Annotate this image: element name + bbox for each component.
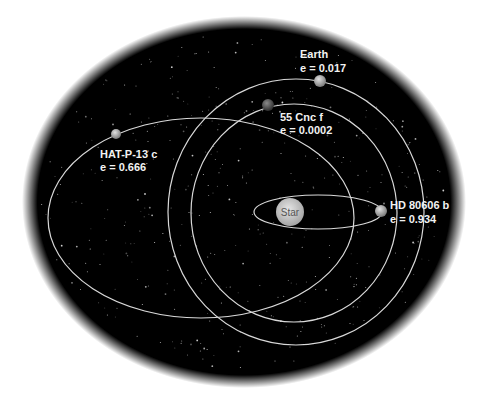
eccentricity-label: e = 0.0002 (280, 124, 332, 136)
planet-body-55-cnc-f (262, 99, 274, 111)
orbit-diagram: Star Earthe = 0.01755 Cnc fe = 0.0002HAT… (0, 0, 481, 396)
planet-body-hd-80606-b (375, 205, 387, 217)
eccentricity-label: e = 0.017 (300, 62, 346, 74)
planet-body-earth (314, 75, 326, 87)
planet-body-hat-p-13-c (111, 129, 121, 139)
star: Star (276, 198, 304, 226)
eccentricity-label: e = 0.666 (100, 161, 146, 173)
star-label: Star (281, 207, 300, 218)
planet-name-label: Earth (300, 48, 328, 60)
planet-name-label: HAT-P-13 c (100, 148, 157, 160)
eccentricity-label: e = 0.934 (390, 213, 437, 225)
planet-name-label: HD 80606 b (390, 199, 450, 211)
planet-name-label: 55 Cnc f (280, 111, 323, 123)
